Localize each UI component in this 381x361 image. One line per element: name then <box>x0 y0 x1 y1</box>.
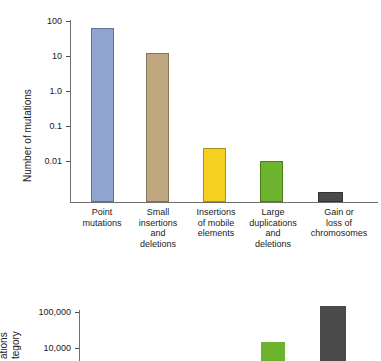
bottom-y-axis-title-line1: ations <box>0 332 9 359</box>
top-y-tick-100 <box>66 21 70 22</box>
bottom-y-tick-label-10000: 10,000 <box>15 344 71 353</box>
bottom-y-axis-line <box>79 310 80 361</box>
category-label-gain-loss-chromosomes: Gain or loss of chromosomes <box>300 207 378 239</box>
bar-large-duplications-deletions <box>260 161 283 202</box>
bottom-bar-chart-panel: ations tegory 100,000 10,000 <box>0 281 381 361</box>
top-y-tick-10 <box>66 56 70 57</box>
top-y-tick-0.01 <box>66 161 70 162</box>
category-label-large-duplications-deletions: Large duplications and deletions <box>240 207 306 249</box>
top-y-tick-label-1: 1.0 <box>28 87 62 96</box>
bottom-y-tick-label-100000: 100,000 <box>15 308 71 317</box>
top-y-tick-0.1 <box>66 126 70 127</box>
bottom-y-tick-100000 <box>75 312 79 313</box>
top-y-tick-label-0.01: 0.01 <box>28 157 62 166</box>
top-y-tick-1 <box>66 91 70 92</box>
top-y-tick-label-10: 10 <box>28 52 62 61</box>
bottom-y-tick-10000 <box>75 348 79 349</box>
bottom-bar-large-duplications-deletions <box>261 342 285 361</box>
bar-small-insertions-deletions <box>146 53 169 202</box>
bar-gain-loss-chromosomes <box>318 192 343 202</box>
category-label-point-mutations: Point mutations <box>71 207 133 228</box>
category-label-insertions-mobile-elements: Insertions of mobile elements <box>184 207 248 239</box>
top-y-tick-label-100: 100 <box>28 17 62 26</box>
top-x-axis-line <box>70 202 378 203</box>
bar-point-mutations <box>91 28 114 202</box>
top-y-axis-line <box>70 20 71 203</box>
top-bar-chart-panel: Number of mutations 100 10 1.0 0.1 0.01 … <box>0 0 381 281</box>
bottom-bar-gain-loss-chromosomes <box>320 306 346 361</box>
top-y-axis-title: Number of mutations <box>22 89 33 182</box>
mutation-rate-figure: Number of mutations 100 10 1.0 0.1 0.01 … <box>0 0 381 361</box>
category-label-small-insertions-deletions: Small insertions and deletions <box>127 207 189 249</box>
bar-insertions-mobile-elements <box>203 148 226 202</box>
top-y-tick-label-0.1: 0.1 <box>28 122 62 131</box>
